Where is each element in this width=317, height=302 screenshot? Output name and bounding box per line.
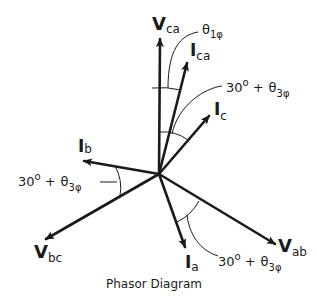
label-ic: Ic [214, 99, 227, 123]
phasor-diagram: Vca Ica Ic Ib Vbc Ia Vab θ1φ 30o+θ3φ 30o… [0, 0, 317, 302]
label-ica: Ica [190, 40, 210, 63]
angle-arc-theta1 [152, 88, 181, 90]
angle-label-theta3-left: 30o+θ3φ [18, 171, 82, 193]
vector-ib [84, 161, 159, 174]
angle-label-theta1: θ1φ [202, 22, 223, 40]
label-vab: Vab [278, 235, 307, 259]
vector-vca [159, 39, 160, 174]
angle-label-theta3-bottom: 30o+θ3φ [218, 251, 282, 273]
leader-theta3-bottom [187, 215, 218, 256]
label-vbc: Vbc [34, 241, 62, 265]
vector-vab [159, 174, 275, 244]
vector-ia [159, 174, 185, 247]
label-ib: Ib [78, 136, 92, 156]
angle-arc-theta3-top [160, 132, 188, 140]
label-vca: Vca [152, 13, 180, 36]
angle-label-theta3-top: 30o+θ3φ [226, 77, 290, 99]
diagram-caption: Phasor Diagram [106, 277, 202, 291]
angle-arc-theta3-left [115, 166, 121, 196]
label-ia: Ia [185, 252, 199, 274]
